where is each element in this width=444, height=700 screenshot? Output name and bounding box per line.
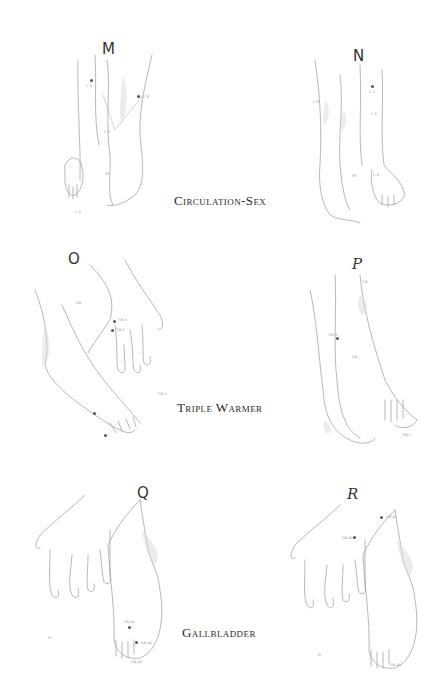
acupoint-label: GB-40 [342,536,353,540]
acupoint-marker [371,85,374,88]
acupoint-marker [111,329,114,332]
figure-label-n: N [353,47,364,65]
figure-p [305,270,435,450]
acupoint-label: GB-44 [141,641,152,645]
acupoint-label: C-8 [143,95,149,99]
acupoint-label: GB-43 [131,660,142,664]
acupoint-marker [353,536,356,539]
figure-label-o: O [68,250,80,268]
leg-and-arm-drawing-p [305,270,435,450]
leg-and-arm-drawing-m [55,45,165,215]
acupoint-label: TW-2 [116,328,125,332]
foot-and-hand-drawing-o [30,255,170,440]
acupoint-marker [336,337,339,340]
acupoint-label: SP [352,174,356,178]
acupoint-label: SI [48,636,51,640]
acupoint-label: C-3 [86,84,92,88]
acupoint-label: TW-1 [158,392,167,396]
figure-m [55,45,165,215]
acupoint-label: C-9 [373,173,379,177]
acupoint-marker [128,626,131,629]
section-caption-circulation-sex: Circulation-Sex [174,193,266,209]
acupoint-label: TW-1 [402,433,411,437]
acupoint-label: TW-3 [118,318,127,322]
acupoint-label: C-3 [369,90,375,94]
acupoint-marker [135,641,138,644]
acupoint-label: C-5 [104,130,110,134]
acupoint-label: GB-44 [390,663,401,667]
figure-label-p: P [352,255,362,273]
figure-n [310,55,420,225]
acupoint-label: GB [76,301,81,305]
acupoint-marker [113,320,116,323]
acupoint-label: SP [105,172,109,176]
acupoint-marker [90,79,93,82]
figure-label-r: R [347,485,358,503]
acupoint-label: GB-41 [124,620,135,624]
acupoint-label: C-8 [313,100,319,104]
hand-and-foot-drawing-r [285,500,425,680]
acupoint-label: TW-3 [328,333,337,337]
acupoint-label: GB [352,355,357,359]
figure-label-m: M [102,40,115,58]
acupoint-marker [137,95,140,98]
acupoint-label: TW [362,280,368,284]
leg-and-arm-drawing-n [310,55,420,225]
acupoint-label: C-9 [75,210,81,214]
acupoint-marker [93,412,96,415]
figure-label-q: Q [137,484,149,502]
figure-r [285,500,425,680]
acupoint-label: GB-41 [386,515,397,519]
acupoint-label: C-5 [371,112,377,116]
acupoint-label: SI [318,653,321,657]
section-caption-gallbladder: Gallbladder [182,625,256,641]
figure-o [30,255,170,440]
acupoint-marker [104,434,107,437]
section-caption-triple-warmer: Triple Warmer [177,400,262,416]
acupoint-marker [380,516,383,519]
